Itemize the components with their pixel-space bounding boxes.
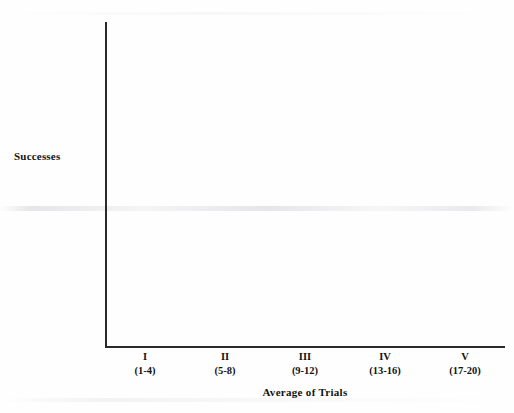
x-axis-title: Average of Trials [105, 386, 505, 398]
x-tick-label: III [260, 350, 350, 363]
x-tick-group: V(17-20) [420, 350, 510, 378]
x-tick-group: II(5-8) [180, 350, 270, 378]
x-tick-group: I(1-4) [100, 350, 190, 378]
x-tick-sublabel: (9-12) [260, 363, 350, 378]
x-tick-label: V [420, 350, 510, 363]
x-axis-line [105, 346, 505, 348]
x-tick-sublabel: (17-20) [420, 363, 510, 378]
y-axis-tick-labels: 2420191817161514131211109876543210 [0, 0, 100, 413]
x-tick-group: IV(13-16) [340, 350, 430, 378]
x-tick-label: I [100, 350, 190, 363]
x-tick-sublabel: (1-4) [100, 363, 190, 378]
chart-figure: Successes 242019181716151413121110987654… [0, 0, 514, 413]
x-tick-label: IV [340, 350, 430, 363]
plot-area [106, 22, 505, 346]
x-tick-label: II [180, 350, 270, 363]
x-tick-sublabel: (13-16) [340, 363, 430, 378]
x-tick-group: III(9-12) [260, 350, 350, 378]
x-tick-sublabel: (5-8) [180, 363, 270, 378]
